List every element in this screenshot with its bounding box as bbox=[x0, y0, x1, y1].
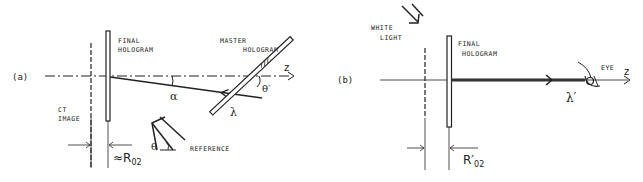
panel-b-tag: (b) bbox=[337, 75, 353, 85]
lambda-prime-label: λ′ bbox=[566, 91, 577, 105]
lambda-label: λ bbox=[230, 106, 237, 119]
theta-prime-angle-arc bbox=[257, 76, 260, 87]
distance-label-a: ≈R02 bbox=[113, 151, 142, 167]
z-axis-label-b: z bbox=[624, 66, 629, 77]
master-hologram-label-1: MASTER bbox=[220, 37, 246, 45]
final-hologram-label-b-1: FINAL bbox=[458, 40, 480, 48]
final-hologram-label-b-2: HOLOGRAM bbox=[462, 50, 497, 58]
eye-icon bbox=[578, 62, 600, 86]
distance-label-b: R′02 bbox=[463, 153, 484, 169]
final-hologram-plate-a bbox=[106, 31, 110, 121]
white-light-label-2: LIGHT bbox=[380, 34, 402, 42]
panel-b: (b) z WHITE LIGHT FINAL HOLOGRAM λ′ bbox=[337, 4, 630, 170]
eye-label: EYE bbox=[601, 64, 614, 72]
final-hologram-plate-b bbox=[447, 36, 452, 127]
final-hologram-label-1: FINAL bbox=[118, 37, 140, 45]
white-light-arrow-icon bbox=[402, 4, 423, 23]
ct-image-label-1: CT bbox=[58, 106, 67, 114]
reference-label: REFERENCE bbox=[190, 145, 230, 153]
hologram-diagram: (a) z FINAL HOLOGRAM α λ MASTER HOLOGRAM… bbox=[0, 0, 643, 182]
theta-prime-label: θ′ bbox=[262, 83, 271, 94]
master-hologram-label-2: HOLOGRAM bbox=[243, 46, 278, 54]
white-light-label-1: WHITE bbox=[371, 24, 393, 32]
panel-a-tag: (a) bbox=[12, 72, 28, 82]
alpha-angle-arc bbox=[172, 76, 173, 86]
final-hologram-label-2: HOLOGRAM bbox=[118, 46, 153, 54]
ct-image-label-2: IMAGE bbox=[58, 115, 80, 123]
z-axis-label-a: z bbox=[284, 62, 289, 73]
alpha-label: α bbox=[170, 90, 178, 103]
panel-a: (a) z FINAL HOLOGRAM α λ MASTER HOLOGRAM… bbox=[12, 31, 294, 168]
theta-label: θ bbox=[151, 141, 157, 152]
